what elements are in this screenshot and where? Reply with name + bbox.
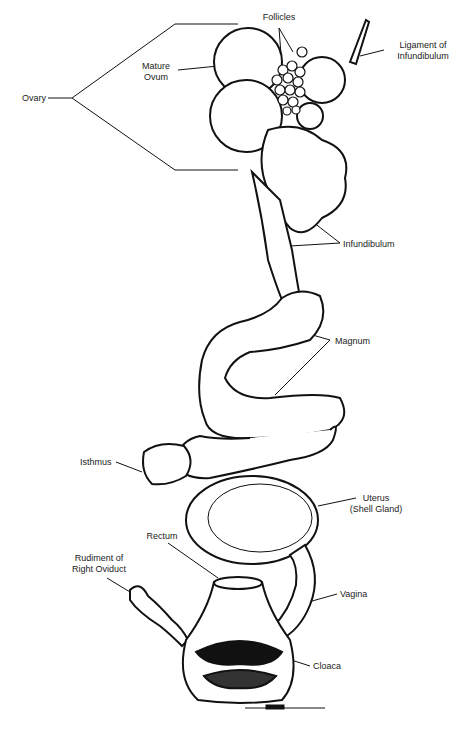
artist-signature [245,705,325,709]
uterus-inner [208,484,312,552]
infundibulum-leader-2 [290,243,340,246]
label-cloaca: Cloaca [313,661,363,672]
magnum-upper-coil [199,291,344,438]
oviduct-anatomy-diagram: Ovary Follicles Mature Ovum Ligament of … [0,0,466,730]
label-rudiment-of-right-oviduct: Rudiment of Right Oviduct [64,553,134,575]
ligament-leader [360,50,384,56]
anatomy-drawing [0,0,466,730]
ovary-bracket-lines [48,24,238,170]
label-mature-ovum: Mature Ovum [134,61,178,83]
rectum-opening [214,577,262,589]
label-vagina: Vagina [340,589,390,600]
label-ligament-of-infundibulum: Ligament of Infundibulum [386,40,460,62]
rudiment-right-oviduct [130,586,188,646]
ligament-of-infundibulum [350,20,369,64]
label-isthmus: Isthmus [80,457,120,468]
ovum-small [297,103,323,129]
rudiment-leader [107,578,130,592]
label-uterus: Uterus (Shell Gland) [344,493,408,515]
isthmus [143,444,191,484]
label-ovary: Ovary [6,93,46,104]
ovum-right [299,57,345,103]
label-rectum: Rectum [140,531,184,542]
label-infundibulum: Infundibulum [343,239,423,250]
follicles-leader-2 [279,28,293,52]
label-magnum: Magnum [335,336,395,347]
label-follicles: Follicles [244,12,314,23]
